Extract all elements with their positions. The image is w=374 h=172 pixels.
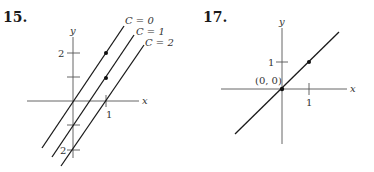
graph-15-label-c1: C = 1 — [136, 26, 165, 37]
graph-15-x-label: x — [142, 95, 148, 106]
graph-17-xtick-label-1: 1 — [306, 97, 312, 108]
graph-17-y-label: y — [278, 16, 285, 27]
graph-17-line-y-equals-x — [235, 32, 339, 134]
graph-15-label-c2: C = 2 — [145, 37, 174, 48]
graph-15-line-c0 — [42, 26, 124, 148]
graph-15: x y 2 2 1 C = 0 C = 1 C = 2 — [27, 15, 174, 166]
graph-15-point-1-2 — [104, 51, 108, 55]
graph-15-xtick-label-1: 1 — [106, 109, 112, 120]
graph-17-point-origin — [280, 87, 284, 91]
graph-15-point-1-1 — [104, 76, 108, 80]
graph-17: x y 1 1 (0, 0) — [221, 16, 356, 144]
graphs-canvas: x y 2 2 1 C = 0 C = 1 C = 2 x y 1 1 — [0, 0, 374, 172]
graph-15-ytick-label-2: 2 — [58, 48, 64, 59]
graph-15-ytick-label-neg2: 2 — [60, 145, 66, 156]
graph-15-label-c0: C = 0 — [125, 15, 154, 26]
graph-15-y-label: y — [69, 25, 76, 36]
graph-17-origin-label: (0, 0) — [255, 75, 282, 86]
graph-17-x-label: x — [350, 83, 356, 94]
graph-17-point-1-1 — [307, 60, 311, 64]
graph-17-ytick-label-1: 1 — [268, 57, 274, 68]
